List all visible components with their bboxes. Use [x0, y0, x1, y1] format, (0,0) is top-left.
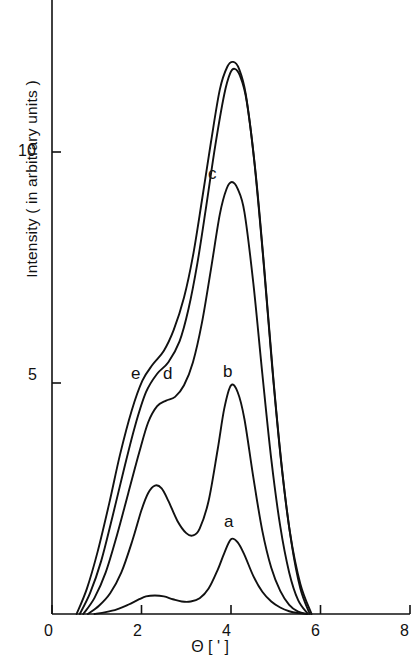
curve-a	[95, 539, 308, 614]
plot-canvas	[0, 0, 420, 670]
y-axis-title: Intensity ( in arbitrary units )	[23, 29, 41, 329]
x-axis-title: Θ [ ' ]	[0, 638, 420, 656]
y-tick-label-10: 10	[18, 142, 36, 160]
curve-b	[88, 384, 307, 614]
curve-label-a: a	[224, 512, 233, 532]
curve-d	[80, 69, 310, 614]
y-tick-label-5: 5	[28, 366, 37, 384]
curve-e	[77, 62, 312, 614]
curve-label-d: d	[163, 364, 172, 384]
curve-group	[77, 62, 312, 614]
curve-label-b: b	[223, 362, 232, 382]
curve-label-c: c	[208, 164, 217, 184]
figure-panel: Intensity ( in arbitrary units ) 0 2 4 6…	[0, 0, 420, 670]
curve-label-e: e	[131, 364, 140, 384]
